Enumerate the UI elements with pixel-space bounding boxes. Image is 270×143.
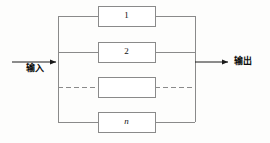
parallel-system-block-diagram: 1 2 n 输入 输出 [0,0,270,143]
output-label: 输出 [234,56,252,67]
block-label-n: n [98,116,155,126]
block-label-1: 1 [98,10,155,20]
block-label-2: 2 [98,46,155,56]
input-label: 输入 [26,63,44,74]
block-box-ellipsis [98,77,155,97]
